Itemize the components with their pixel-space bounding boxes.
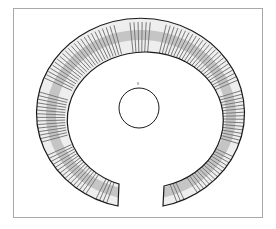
cross-section-circle [119,88,159,128]
bracelet-body [0,0,276,229]
bracelet-drawing [0,0,276,229]
